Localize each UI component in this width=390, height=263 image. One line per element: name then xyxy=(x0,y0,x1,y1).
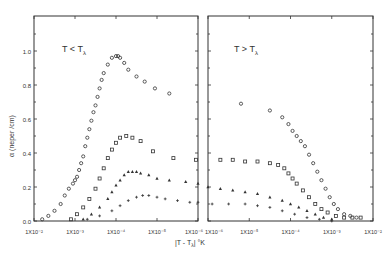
x-tick-label: 1X10⁻⁶ xyxy=(205,229,223,235)
circle-marker xyxy=(143,80,146,83)
plus-marker xyxy=(188,201,191,204)
y-tick-label: 0.6 xyxy=(23,117,32,123)
circle-marker xyxy=(100,78,103,81)
y-tick-label: 0.8 xyxy=(23,83,32,89)
triangle-marker xyxy=(127,170,130,173)
square-marker xyxy=(102,167,105,170)
x-tick-label: 1X10⁻⁴ xyxy=(107,229,126,235)
y-tick-label: 0.2 xyxy=(23,185,32,191)
triangle-marker xyxy=(106,197,109,200)
figure: 0.00.20.40.60.81.0 1X10⁻²1X10⁻³1X10⁻⁴1X1… xyxy=(0,0,390,263)
triangle-marker xyxy=(219,187,222,190)
circle-marker xyxy=(86,136,89,139)
square-marker xyxy=(106,157,109,160)
circle-marker xyxy=(71,182,74,185)
square-marker xyxy=(119,136,122,139)
plus-marker xyxy=(211,203,214,206)
x-tick-label: 1X10⁻² xyxy=(25,229,43,235)
circle-marker xyxy=(96,95,99,98)
circle-marker xyxy=(332,202,335,205)
x-tick-label: 1X10⁻⁵ xyxy=(240,229,258,235)
left-panel-label: T < Tλ xyxy=(62,44,86,56)
square-marker xyxy=(334,214,337,217)
square-marker xyxy=(115,141,118,144)
circle-marker xyxy=(291,129,294,132)
plus-marker xyxy=(227,203,230,206)
plus-marker xyxy=(86,218,89,221)
right-panel: 1X10⁻⁶1X10⁻⁵1X10⁻⁴1X10⁻³1X10⁻² T > Tλ xyxy=(205,16,382,235)
x-axis-label: |T - Tλ| °K xyxy=(175,239,205,248)
circle-marker xyxy=(303,145,306,148)
circle-marker xyxy=(94,104,97,107)
triangle-marker xyxy=(90,212,93,215)
plus-marker xyxy=(176,199,179,202)
x-tick-label: 1X10⁻⁶ xyxy=(185,229,203,235)
square-marker xyxy=(110,148,113,151)
square-marker xyxy=(320,208,323,211)
circle-marker xyxy=(80,162,83,165)
triangle-marker xyxy=(297,206,300,209)
plus-marker xyxy=(135,196,138,199)
y-tick-label: 0.4 xyxy=(23,151,32,157)
triangle-marker xyxy=(305,209,308,212)
plus-marker xyxy=(256,204,259,207)
triangle-marker xyxy=(131,170,134,173)
circle-marker xyxy=(153,87,156,90)
triangle-marker xyxy=(139,172,142,175)
y-tick-label: 1.0 xyxy=(23,49,32,55)
square-marker xyxy=(82,206,85,209)
circle-marker xyxy=(324,187,327,190)
y-axis-label: α (neper /cm) xyxy=(8,115,16,157)
circle-marker xyxy=(281,116,284,119)
circle-marker xyxy=(67,187,70,190)
triangle-marker xyxy=(114,184,117,187)
square-marker xyxy=(151,150,154,153)
circle-marker xyxy=(63,194,66,197)
x-tick-label: 1X10⁻⁵ xyxy=(148,229,166,235)
plus-marker xyxy=(141,194,144,197)
plus-marker xyxy=(156,196,159,199)
circle-marker xyxy=(336,208,339,211)
triangle-marker xyxy=(119,178,122,181)
circle-marker xyxy=(73,179,76,182)
circle-marker xyxy=(102,72,105,75)
circle-marker xyxy=(328,196,331,199)
circle-marker xyxy=(316,170,319,173)
square-marker xyxy=(343,216,346,219)
square-marker xyxy=(359,216,362,219)
circle-marker xyxy=(135,75,138,78)
triangle-marker xyxy=(268,195,271,198)
triangle-marker xyxy=(289,202,292,205)
triangle-marker xyxy=(281,199,284,202)
x-tick-label: 1X10⁻⁴ xyxy=(281,229,300,235)
square-marker xyxy=(88,197,91,200)
circle-marker xyxy=(84,145,87,148)
circle-marker xyxy=(299,140,302,143)
circle-marker xyxy=(312,162,315,165)
left-frame xyxy=(34,16,198,221)
plus-marker xyxy=(119,204,122,207)
circle-marker xyxy=(88,128,91,131)
circle-marker xyxy=(320,179,323,182)
triangle-marker xyxy=(155,177,158,180)
square-marker xyxy=(139,140,142,143)
x-tick-label: 1X10⁻² xyxy=(364,229,382,235)
triangle-marker xyxy=(231,189,234,192)
plus-marker xyxy=(127,199,130,202)
plus-marker xyxy=(164,198,167,201)
square-marker xyxy=(287,172,290,175)
square-marker xyxy=(295,182,298,185)
square-marker xyxy=(291,177,294,180)
circle-marker xyxy=(355,216,358,219)
square-marker xyxy=(172,157,175,160)
circle-marker xyxy=(168,92,171,95)
circle-marker xyxy=(295,134,298,137)
square-marker xyxy=(231,158,234,161)
circle-marker xyxy=(127,68,130,71)
circle-marker xyxy=(59,202,62,205)
plus-marker xyxy=(268,206,271,209)
circle-marker xyxy=(90,119,93,122)
plus-marker xyxy=(111,209,114,212)
plus-marker xyxy=(98,215,101,218)
circle-marker xyxy=(268,109,271,112)
